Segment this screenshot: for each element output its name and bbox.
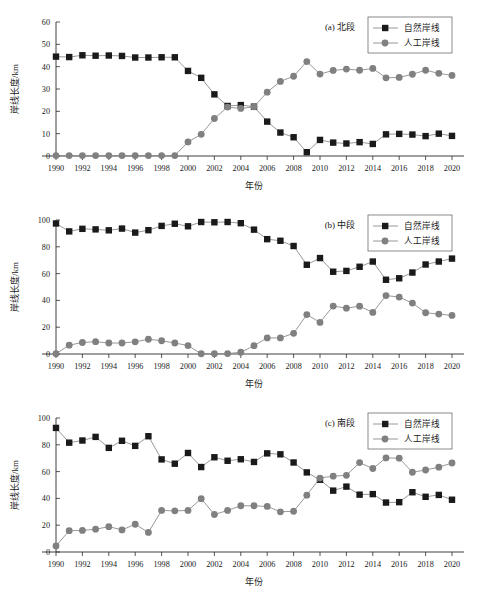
data-point-marker xyxy=(304,469,310,475)
x-tick-label: 1994 xyxy=(101,560,117,569)
legend-marker-square-icon xyxy=(382,25,388,31)
legend-label-natural: 自然岸线 xyxy=(404,418,440,429)
data-point-marker xyxy=(119,225,125,231)
data-point-marker xyxy=(435,311,442,318)
chart-panel-a: 0102030405060199019921994199619982000200… xyxy=(0,0,495,198)
legend-label-natural: 自然岸线 xyxy=(404,22,440,33)
data-point-marker xyxy=(224,219,230,225)
data-point-marker xyxy=(145,433,151,439)
data-point-marker xyxy=(422,467,429,474)
y-tick-label: 100 xyxy=(38,414,50,423)
data-point-marker xyxy=(369,465,376,472)
data-point-marker xyxy=(198,75,204,81)
legend-marker-circle-icon xyxy=(382,238,389,245)
x-tick-label: 2010 xyxy=(312,362,328,371)
data-point-marker xyxy=(317,319,324,326)
data-point-marker xyxy=(369,65,376,72)
data-point-marker xyxy=(396,74,403,81)
data-point-marker xyxy=(370,141,376,147)
data-point-marker xyxy=(237,105,244,112)
data-point-marker xyxy=(264,118,270,124)
x-tick-label: 2016 xyxy=(391,560,407,569)
data-point-marker xyxy=(158,152,165,159)
data-point-marker xyxy=(290,330,297,337)
x-tick-label: 2002 xyxy=(206,560,222,569)
y-tick-label: 60 xyxy=(42,270,50,279)
data-point-marker xyxy=(53,220,59,226)
data-point-marker xyxy=(436,492,442,498)
data-point-marker xyxy=(66,342,73,349)
data-point-marker xyxy=(251,459,257,465)
data-point-marker xyxy=(304,262,310,268)
x-tick-label: 2006 xyxy=(259,560,275,569)
data-point-marker xyxy=(79,527,86,534)
x-tick-label: 2014 xyxy=(365,362,381,371)
x-tick-label: 2012 xyxy=(338,362,354,371)
data-point-marker xyxy=(409,71,416,78)
data-point-marker xyxy=(330,473,337,480)
y-tick-label: 10 xyxy=(42,130,50,139)
data-point-marker xyxy=(79,152,86,159)
x-tick-label: 2014 xyxy=(365,164,381,173)
data-point-marker xyxy=(132,54,138,60)
panel-title: (a) 北段 xyxy=(325,21,355,32)
data-point-marker xyxy=(238,220,244,226)
data-point-marker xyxy=(277,78,284,85)
data-point-marker xyxy=(277,508,284,515)
x-tick-label: 2000 xyxy=(180,362,196,371)
panel-title: (b) 中段 xyxy=(325,219,356,230)
data-point-marker xyxy=(409,131,415,137)
x-tick-label: 2012 xyxy=(338,164,354,173)
data-point-marker xyxy=(145,336,152,343)
data-point-marker xyxy=(290,243,296,249)
data-point-marker xyxy=(53,543,60,550)
y-tick-label: 0 xyxy=(46,350,50,359)
y-tick-label: 60 xyxy=(42,18,50,27)
data-point-marker xyxy=(264,450,270,456)
legend-label-natural: 自然岸线 xyxy=(404,220,440,231)
data-point-marker xyxy=(172,54,178,60)
data-point-marker xyxy=(330,67,337,74)
x-tick-label: 1998 xyxy=(153,164,169,173)
chart-svg-0: 0102030405060199019921994199619982000200… xyxy=(0,0,495,198)
data-point-marker xyxy=(264,236,270,242)
data-point-marker xyxy=(290,459,296,465)
data-point-marker xyxy=(119,438,125,444)
data-point-marker xyxy=(435,464,442,471)
x-tick-label: 1992 xyxy=(74,362,90,371)
data-point-marker xyxy=(343,66,350,73)
data-point-marker xyxy=(264,89,271,96)
data-point-marker xyxy=(277,129,283,135)
x-tick-label: 2010 xyxy=(312,560,328,569)
legend-marker-square-icon xyxy=(382,223,388,229)
data-point-marker xyxy=(303,311,310,318)
data-point-marker xyxy=(383,277,389,283)
x-tick-label: 2004 xyxy=(233,164,249,173)
legend-label-artificial: 人工岸线 xyxy=(404,235,440,246)
data-point-marker xyxy=(92,434,98,440)
x-tick-label: 2020 xyxy=(444,164,460,173)
data-point-marker xyxy=(79,437,85,443)
data-point-marker xyxy=(330,269,336,275)
data-point-marker xyxy=(185,223,191,229)
x-axis-title: 年份 xyxy=(245,378,263,389)
data-point-marker xyxy=(53,425,59,431)
x-tick-label: 1996 xyxy=(127,164,143,173)
y-tick-label: 30 xyxy=(42,85,50,94)
data-point-marker xyxy=(132,229,138,235)
y-tick-label: 80 xyxy=(42,243,50,252)
x-tick-label: 2008 xyxy=(285,560,301,569)
x-tick-label: 2016 xyxy=(391,362,407,371)
data-point-marker xyxy=(396,455,403,462)
data-point-marker xyxy=(92,53,98,59)
data-point-marker xyxy=(158,507,165,514)
data-point-marker xyxy=(66,152,73,159)
data-point-marker xyxy=(422,261,428,267)
data-point-marker xyxy=(158,456,164,462)
data-point-marker xyxy=(290,73,297,80)
data-point-marker xyxy=(449,497,455,503)
data-point-marker xyxy=(303,492,310,499)
data-point-marker xyxy=(343,472,350,479)
data-point-marker xyxy=(106,52,112,58)
data-point-marker xyxy=(119,340,126,347)
